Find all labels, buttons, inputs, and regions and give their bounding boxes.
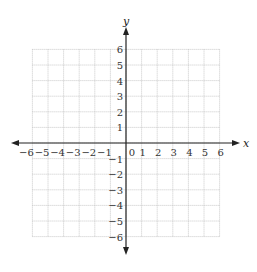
x-tick-label: 1 bbox=[139, 147, 145, 158]
x-axis-label: x bbox=[243, 137, 250, 150]
y-tick-label: 3 bbox=[117, 91, 123, 102]
x-axis-left-arrow-icon bbox=[11, 140, 19, 146]
x-tick-label: −4 bbox=[50, 147, 65, 158]
x-tick-label: 2 bbox=[155, 147, 161, 158]
x-axis-right-arrow-icon bbox=[232, 140, 240, 146]
x-tick-label: −6 bbox=[19, 147, 34, 158]
x-tick-label: 4 bbox=[186, 147, 192, 158]
y-tick-label: −4 bbox=[108, 200, 123, 211]
y-tick-label: 6 bbox=[117, 44, 123, 55]
y-tick-label: 4 bbox=[117, 76, 123, 87]
y-tick-label: −3 bbox=[108, 185, 123, 196]
y-axis-label: y bbox=[122, 15, 130, 28]
y-axis-up-arrow-icon bbox=[123, 27, 129, 35]
y-tick-label: 5 bbox=[117, 60, 123, 71]
y-tick-label: −6 bbox=[108, 232, 123, 243]
y-tick-label: 1 bbox=[117, 122, 123, 133]
x-tick-label: 0 bbox=[129, 147, 135, 158]
coordinate-plane: x y −6−5−4−3−2−10123456 123456−1−2−3−4−5… bbox=[0, 0, 257, 272]
y-tick-label: −5 bbox=[108, 216, 123, 227]
x-tick-label: −3 bbox=[66, 147, 81, 158]
y-tick-label: −1 bbox=[108, 154, 123, 165]
x-tick-label: 6 bbox=[217, 147, 223, 158]
x-tick-label: −5 bbox=[35, 147, 50, 158]
y-axis-down-arrow-icon bbox=[123, 247, 129, 255]
x-tick-label: 5 bbox=[202, 147, 208, 158]
y-tick-label: −2 bbox=[108, 169, 123, 180]
y-tick-label: 2 bbox=[117, 107, 123, 118]
x-tick-label: 3 bbox=[171, 147, 177, 158]
x-tick-label: −2 bbox=[81, 147, 96, 158]
